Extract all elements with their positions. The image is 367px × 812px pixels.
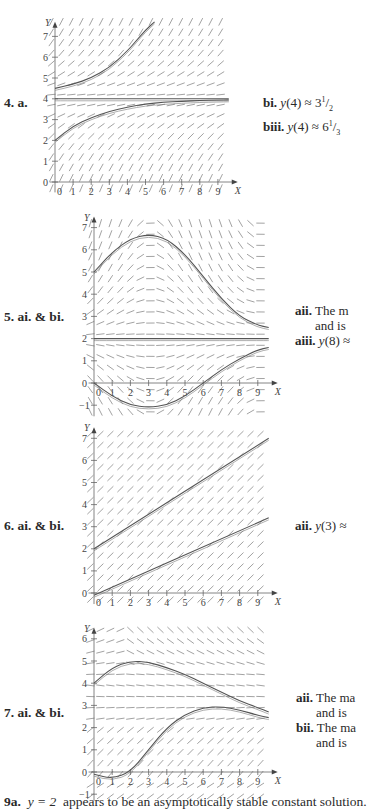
svg-text:3: 3 xyxy=(107,186,112,197)
plot-5-content: −1012345670123456789XY xyxy=(79,212,282,417)
problem-4-answers: bi. y(4) ≈ 31/2 biii. y(4) ≈ 61/3 xyxy=(263,92,340,140)
solution-curve xyxy=(94,661,269,712)
svg-text:3: 3 xyxy=(82,311,87,322)
tick-labels: 012345670123456789XY xyxy=(82,422,282,608)
svg-text:7: 7 xyxy=(43,31,48,42)
svg-text:3: 3 xyxy=(82,521,87,532)
x-axis-arrow-icon xyxy=(272,381,278,386)
svg-text:0: 0 xyxy=(57,186,62,197)
svg-text:X: X xyxy=(234,185,242,196)
svg-text:6: 6 xyxy=(43,52,48,63)
svg-text:7: 7 xyxy=(82,222,87,233)
svg-text:7: 7 xyxy=(179,186,184,197)
answer-bii-cont: and is xyxy=(296,735,356,750)
problem-5-label: 5. ai. & bi. xyxy=(4,309,64,325)
tick-labels: 012345670123456789XY xyxy=(43,17,242,197)
svg-text:3: 3 xyxy=(146,776,151,787)
svg-text:4: 4 xyxy=(82,499,87,510)
answer-aii-cont: and is xyxy=(295,318,350,333)
svg-text:9: 9 xyxy=(255,387,260,398)
plot-7-content: −101234560123456789XY xyxy=(79,623,282,801)
problem-7-label: 7. ai. & bi. xyxy=(4,705,64,721)
svg-text:0: 0 xyxy=(43,177,48,188)
svg-text:8: 8 xyxy=(237,597,242,608)
svg-text:1: 1 xyxy=(43,156,48,167)
svg-text:4: 4 xyxy=(164,597,169,608)
svg-text:7: 7 xyxy=(82,433,87,444)
svg-text:6: 6 xyxy=(161,186,166,197)
y-axis-arrow-icon xyxy=(53,22,58,28)
svg-text:6: 6 xyxy=(82,244,87,255)
problem-6-answers: aii. y(3) ≈ xyxy=(295,518,347,533)
svg-text:4: 4 xyxy=(164,387,169,398)
svg-text:6: 6 xyxy=(82,633,87,644)
answer-aii: aii. The m xyxy=(295,303,350,318)
svg-text:2: 2 xyxy=(128,387,133,398)
svg-text:0: 0 xyxy=(82,378,87,389)
svg-text:2: 2 xyxy=(128,776,133,787)
svg-text:Y: Y xyxy=(84,212,91,223)
problem-5-answers: aii. The m and is aiii. y(8) ≈ xyxy=(295,303,350,348)
svg-text:5: 5 xyxy=(82,656,87,667)
svg-text:2: 2 xyxy=(43,135,48,146)
svg-text:2: 2 xyxy=(89,186,94,197)
svg-text:3: 3 xyxy=(146,597,151,608)
svg-text:1: 1 xyxy=(82,355,87,366)
tick-labels: −1012345670123456789XY xyxy=(79,212,282,411)
answer-bi: bi. y(4) ≈ 31/2 xyxy=(263,92,340,116)
solution-curve xyxy=(94,707,269,777)
svg-text:5: 5 xyxy=(82,477,87,488)
plot-6-content: 012345670123456789XY xyxy=(82,422,282,608)
svg-text:3: 3 xyxy=(82,700,87,711)
svg-text:8: 8 xyxy=(197,186,202,197)
plot-4-content: 012345670123456789XY xyxy=(43,17,242,197)
svg-text:7: 7 xyxy=(219,387,224,398)
svg-text:5: 5 xyxy=(82,267,87,278)
svg-text:7: 7 xyxy=(219,776,224,787)
y-axis-arrow-icon xyxy=(92,427,97,433)
svg-text:6: 6 xyxy=(82,455,87,466)
approx-curve xyxy=(94,440,269,551)
svg-text:9: 9 xyxy=(215,186,220,197)
svg-text:X: X xyxy=(274,596,282,607)
svg-text:−1: −1 xyxy=(79,400,90,411)
svg-text:4: 4 xyxy=(82,289,87,300)
axes xyxy=(50,26,235,193)
svg-text:X: X xyxy=(274,386,282,397)
svg-text:0: 0 xyxy=(96,597,101,608)
svg-text:7: 7 xyxy=(219,597,224,608)
svg-text:4: 4 xyxy=(125,186,130,197)
answer-aii-cont: and is xyxy=(296,705,356,720)
approx-curve xyxy=(94,663,269,714)
svg-text:1: 1 xyxy=(82,565,87,576)
answer-bii: bii. The ma xyxy=(296,720,356,735)
svg-text:6: 6 xyxy=(201,776,206,787)
svg-text:8: 8 xyxy=(237,387,242,398)
svg-text:0: 0 xyxy=(82,767,87,778)
problem-6-label: 6. ai. & bi. xyxy=(4,518,64,534)
svg-text:Y: Y xyxy=(84,422,91,433)
svg-text:4: 4 xyxy=(82,678,87,689)
svg-text:Y: Y xyxy=(84,623,91,634)
svg-text:1: 1 xyxy=(71,186,76,197)
svg-text:2: 2 xyxy=(128,597,133,608)
svg-text:6: 6 xyxy=(201,597,206,608)
svg-text:3: 3 xyxy=(146,387,151,398)
svg-text:6: 6 xyxy=(201,387,206,398)
approx-curve xyxy=(94,520,269,597)
svg-text:4: 4 xyxy=(43,93,48,104)
footer-9a: 9a. y = 2 appears to be an asymptoticall… xyxy=(4,794,367,810)
x-axis-arrow-icon xyxy=(272,770,278,775)
svg-text:X: X xyxy=(274,775,282,786)
x-axis-arrow-icon xyxy=(272,591,278,596)
problem-7-answers: aii. The ma and is bii. The ma and is xyxy=(296,690,356,750)
svg-text:8: 8 xyxy=(237,776,242,787)
svg-text:2: 2 xyxy=(82,543,87,554)
svg-text:9: 9 xyxy=(255,776,260,787)
svg-text:1: 1 xyxy=(82,744,87,755)
svg-text:5: 5 xyxy=(183,776,188,787)
svg-text:2: 2 xyxy=(82,333,87,344)
answer-aiii: aiii. y(8) ≈ xyxy=(295,333,350,348)
slope-field xyxy=(86,627,265,799)
x-axis-arrow-icon xyxy=(232,180,238,185)
